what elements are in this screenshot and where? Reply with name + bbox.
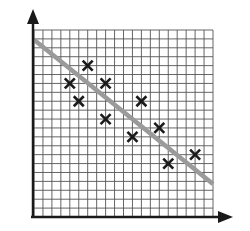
y-axis-arrow-icon (27, 9, 39, 24)
grid (34, 30, 213, 217)
x-axis-arrow-icon (218, 211, 233, 223)
scatter-chart (0, 0, 250, 231)
